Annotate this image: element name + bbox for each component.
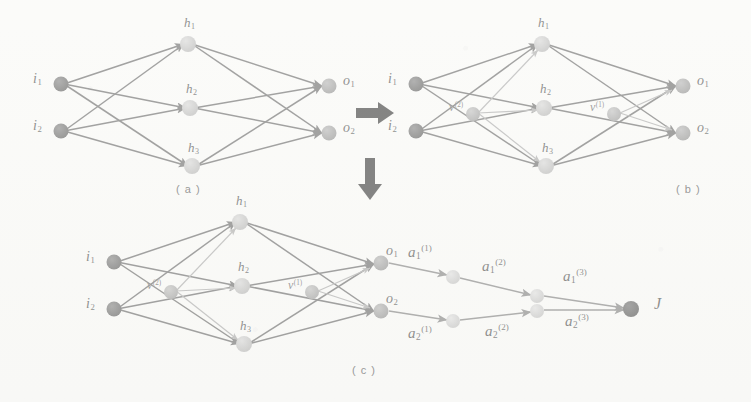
node-c-h1 [232,214,248,230]
figure-root: i1 i2 h1 h2 h3 o1 o2 ( a ) i1 i2 h1 h2 h… [0,0,751,402]
node-b-h1 [534,36,550,52]
node-b-i1 [409,77,424,92]
label-c-i2: i2 [86,297,95,312]
node-o1 [322,79,337,94]
label-b-v2: v(2) [449,101,463,113]
node-c-v1 [305,285,319,299]
caption-panel-a: ( a ) [176,183,201,195]
label-c-o2: o2 [386,292,398,307]
node-b-v2 [466,107,480,121]
label-c-J: J [654,296,661,312]
label-b-o2: o2 [697,121,709,136]
node-c-J [623,301,639,317]
label-b-h1: h1 [538,16,549,31]
label-b-o1: o1 [697,74,709,89]
node-c-h3 [236,336,252,352]
label-a-h2: h2 [186,82,197,97]
panel-c-nodes [107,214,640,352]
node-b-h2 [536,100,552,116]
panel-c-chain-edges [389,263,624,320]
node-c-a2-1 [446,314,460,328]
node-i2 [54,124,69,139]
node-b-o2 [676,126,691,141]
caption-panel-c: ( c ) [352,364,376,376]
arrow-a-to-b-icon [356,100,396,126]
node-c-a1-2 [530,289,544,303]
label-c-o1: o1 [386,244,398,259]
label-a-h1: h1 [184,16,195,31]
node-c-v2 [164,285,178,299]
node-b-v1 [607,107,621,121]
node-c-h2 [234,278,250,294]
label-c-a1-3: a1(3) [563,268,587,285]
caption-panel-b: ( b ) [676,183,701,195]
node-c-a1-1 [446,270,460,284]
label-c-h1: h1 [236,194,247,209]
label-c-v2: v(2) [147,279,161,291]
label-c-a1-1: a1(1) [408,244,432,261]
node-c-i1 [107,255,122,270]
label-c-a2-1: a2(1) [408,325,432,342]
arrow-b-to-c-icon [357,158,383,202]
label-a-h3: h3 [188,141,199,156]
node-b-h3 [538,158,554,174]
node-h2 [182,100,198,116]
node-c-a2-2 [530,304,544,318]
label-c-a2-2: a2(2) [485,323,509,340]
node-h1 [180,36,196,52]
label-a-i2: i2 [33,119,42,134]
label-a-o1: o1 [343,74,355,89]
label-b-h3: h3 [542,141,553,156]
node-h3 [184,158,200,174]
label-b-i1: i1 [388,72,397,87]
label-c-a1-2: a1(2) [482,258,506,275]
node-c-i2 [107,302,122,317]
label-c-a2-3: a2(3) [565,313,589,330]
label-b-h2: h2 [540,82,551,97]
label-a-o2: o2 [343,121,355,136]
node-b-i2 [409,124,424,139]
label-c-i1: i1 [86,250,95,265]
label-c-h2: h2 [238,260,249,275]
label-c-v1: v(1) [288,279,302,291]
label-b-v1: v(1) [590,101,604,113]
node-b-o1 [676,79,691,94]
node-o2 [322,126,337,141]
label-c-h3: h3 [240,319,251,334]
label-a-i1: i1 [33,72,42,87]
node-i1 [54,77,69,92]
